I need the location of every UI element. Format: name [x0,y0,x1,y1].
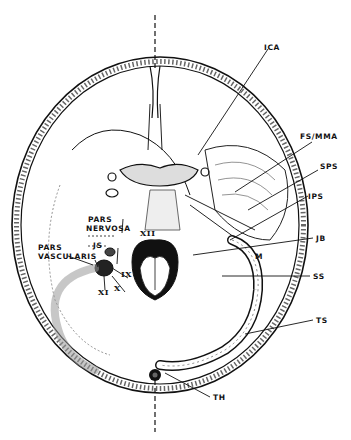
label-pars-vascularis-line2: VASCULARIS [38,253,97,261]
label-ips: IPS [308,193,324,201]
label-sps: SPS [320,163,338,171]
label-pars-vascularis-line1: PARS [38,244,62,252]
label-pars-nervosa-line1: PARS [88,216,112,224]
label-fs-mma: FS/MMA [300,133,338,141]
label-ss: SS [313,273,325,281]
label-nerve-ix: IX [121,270,132,278]
label-ica: ICA [264,44,280,52]
label-nerve-xi: XI [98,288,109,296]
label-th: TH [213,394,226,402]
anatomy-drawing [0,0,351,440]
label-pars-nervosa-line2: NERVOSA [86,225,131,233]
label-js: JS [93,242,102,250]
label-nerve-x: X [114,284,121,292]
label-m: M [255,253,263,261]
skull-base-illustration: ICA FS/MMA SPS IPS JB M SS TS TH PARS NE… [0,0,351,440]
label-jb: JB [316,235,326,243]
label-ts: TS [316,317,328,325]
label-nerve-xii: XII [140,229,156,237]
